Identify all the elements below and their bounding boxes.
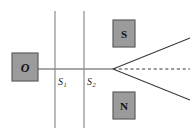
slit-1-label-main: S [58,76,63,87]
slit-1-label: S1 [58,76,67,88]
magnet-south-pole-label: S [121,28,127,40]
slit-1-label-subscript: 1 [64,81,67,88]
diagram-canvas: O S N S1 S2 [0,0,194,133]
slit-2-label-subscript: 2 [93,81,97,88]
magnet-north-pole-label: N [120,100,128,112]
source-box-label: O [21,61,30,75]
slit-2-label-main: S [87,76,92,87]
stern-gerlach-diagram: O S N S1 S2 [0,0,194,133]
slit-2-label: S2 [87,76,97,88]
